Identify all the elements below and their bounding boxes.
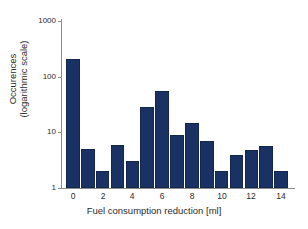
bar	[200, 141, 214, 188]
bar	[96, 171, 110, 188]
y-axis-label-line2: (logarithmic scale)	[18, 9, 29, 149]
x-tick-label: 0	[63, 191, 83, 201]
plot-area	[61, 21, 293, 188]
x-tick-label: 14	[271, 191, 291, 201]
bar	[259, 146, 273, 188]
bar	[155, 91, 169, 188]
bar	[274, 171, 288, 188]
bar	[111, 145, 125, 188]
bar	[185, 123, 199, 188]
bar	[66, 59, 80, 188]
x-axis-line	[61, 188, 295, 189]
x-tick-label: 2	[93, 191, 113, 201]
chart-figure: 1000100101 02468101214 Fuel consumption …	[0, 0, 308, 229]
bar	[140, 107, 154, 188]
x-tick-label: 10	[212, 191, 232, 201]
x-tick-label: 8	[182, 191, 202, 201]
y-tick-label: 1000	[38, 17, 56, 25]
y-tick-label: 1	[52, 184, 56, 192]
bar	[81, 149, 95, 188]
bar	[230, 155, 244, 189]
x-tick-label: 4	[122, 191, 142, 201]
y-tick-label: 10	[47, 128, 56, 136]
bar	[170, 135, 184, 188]
x-axis-label: Fuel consumption reduction [ml]	[0, 205, 308, 216]
x-tick-label: 6	[152, 191, 172, 201]
x-tick-label: 12	[241, 191, 261, 201]
y-axis-label-line1: Occurences	[7, 9, 18, 149]
y-tick-label: 100	[43, 73, 56, 81]
bar	[126, 161, 140, 188]
y-tick-mark	[58, 188, 62, 189]
bar	[245, 150, 259, 188]
y-axis-label: Occurences (logarithmic scale)	[7, 9, 29, 149]
bar	[215, 171, 229, 188]
